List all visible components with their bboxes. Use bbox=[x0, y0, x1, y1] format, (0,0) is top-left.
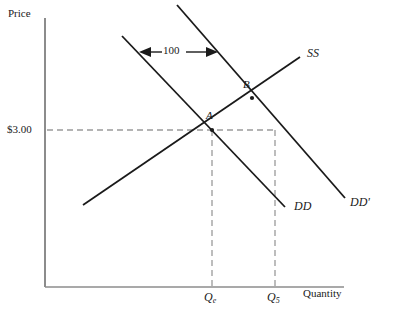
diagram-canvas bbox=[0, 0, 398, 323]
shift-arrow-head-right-icon bbox=[206, 47, 218, 57]
point-label-b: B bbox=[243, 79, 250, 90]
q5-base: Q bbox=[267, 290, 276, 304]
quantity-tick-label-qe: Qe bbox=[204, 291, 216, 303]
q5-subscript: 5 bbox=[276, 296, 280, 305]
curve-label-dd: DD bbox=[294, 200, 311, 212]
demand-curve-dd-prime bbox=[177, 5, 345, 198]
y-axis-label: Price bbox=[8, 8, 31, 19]
demand-curve-dd bbox=[122, 36, 285, 207]
curve-label-dd-prime: DD' bbox=[350, 196, 370, 208]
supply-demand-figure: Price Quantity $3.00 Qe Q5 SS DD DD' A B… bbox=[0, 0, 398, 323]
supply-curve-ss bbox=[83, 57, 300, 205]
equilibrium-point-b-dot bbox=[250, 96, 254, 100]
qe-base: Q bbox=[204, 290, 213, 304]
equilibrium-point-a-dot bbox=[210, 128, 214, 132]
point-label-a: A bbox=[206, 110, 213, 121]
curve-label-ss: SS bbox=[307, 47, 319, 59]
x-axis-label: Quantity bbox=[303, 288, 342, 299]
price-tick-label-3-00: $3.00 bbox=[7, 124, 32, 135]
quantity-tick-label-q5: Q5 bbox=[267, 291, 280, 303]
shift-annotation-label: 100 bbox=[163, 45, 180, 56]
qe-subscript: e bbox=[213, 296, 217, 305]
